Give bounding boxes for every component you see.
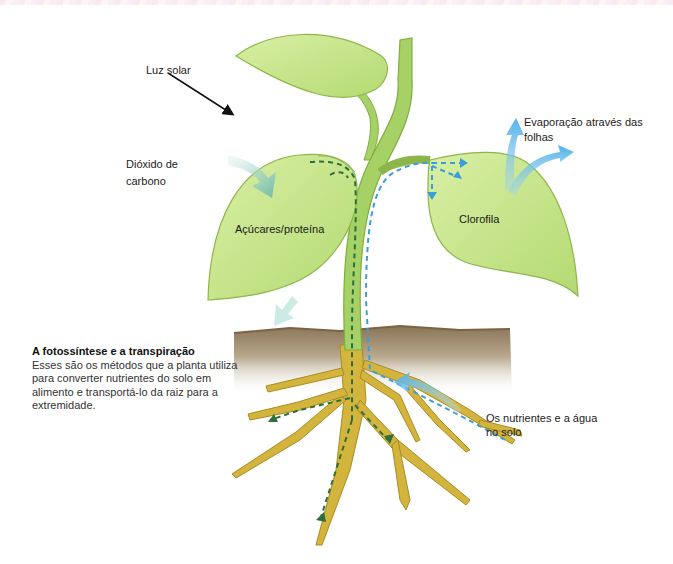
label-nutrients-line1: Os nutrientes e a água	[486, 411, 597, 425]
label-evaporation-line2: folhas	[524, 130, 553, 144]
leaf-top	[236, 34, 387, 97]
label-nutrients-line2: no solo	[486, 425, 521, 439]
label-sunlight: Luz solar	[146, 63, 191, 77]
oxygen-out-arrow	[274, 296, 298, 326]
label-co2-line1: Dióxido de	[126, 157, 178, 171]
label-evaporation-line1: Evaporação através das	[524, 115, 643, 129]
caption-description: Esses são os métodos que a planta utiliz…	[32, 359, 242, 413]
sunlight-arrow	[168, 73, 232, 114]
diagram-caption: A fotossíntese e a transpiração Esses sã…	[32, 345, 242, 413]
label-chlorophyll: Clorofila	[459, 212, 499, 226]
label-co2-line2: carbono	[126, 174, 166, 188]
plant-illustration	[0, 0, 673, 564]
caption-title: A fotossíntese e a transpiração	[32, 345, 242, 359]
label-sugars: Açúcares/proteína	[235, 222, 324, 236]
